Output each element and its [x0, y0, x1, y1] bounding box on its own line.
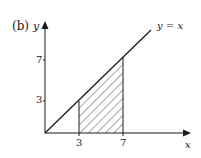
panel-label: (b) [12, 20, 29, 32]
y-axis-arrow-icon [42, 21, 49, 29]
y-tick-label-3: 3 [36, 95, 42, 105]
y-axis-label: y [33, 21, 39, 32]
x-tick-label-7: 7 [120, 138, 126, 148]
x-axis-label: x [185, 140, 191, 150]
y-tick-label-7: 7 [36, 55, 42, 65]
line-label: y = x [157, 21, 183, 31]
x-axis-arrow-icon [183, 130, 191, 137]
x-tick-label-3: 3 [76, 138, 82, 148]
shaded-region [79, 57, 123, 133]
